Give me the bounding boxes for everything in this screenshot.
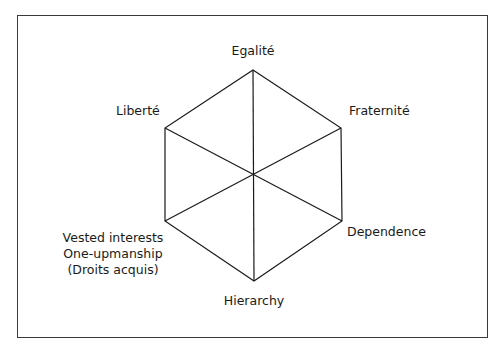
vertical-diagonal [253, 70, 254, 281]
label-fraternite: Fraternité [349, 103, 410, 119]
label-vested-interests-group: Vested interests One-upmanship (Droits a… [62, 230, 164, 278]
label-egalite: Egalité [203, 43, 303, 59]
label-hierarchy: Hierarchy [204, 293, 304, 309]
label-dependence: Dependence [347, 224, 426, 240]
label-liberte: Liberté [116, 103, 160, 119]
label-droits-acquis: (Droits acquis) [62, 262, 164, 278]
label-one-upmanship: One-upmanship [62, 246, 164, 262]
label-vested-interests: Vested interests [62, 230, 164, 246]
